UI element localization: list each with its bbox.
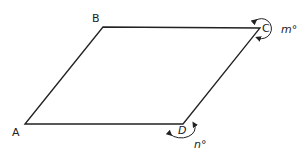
parallelogram-shape (25, 27, 260, 124)
vertex-label-c: C (262, 23, 270, 34)
vertex-label-b: B (92, 13, 100, 24)
angle-label-m: m° (281, 24, 297, 35)
vertex-label-a: A (12, 127, 20, 138)
vertex-label-d: D (178, 125, 186, 136)
parallelogram-diagram (0, 0, 307, 156)
angle-label-n: n° (194, 139, 206, 150)
